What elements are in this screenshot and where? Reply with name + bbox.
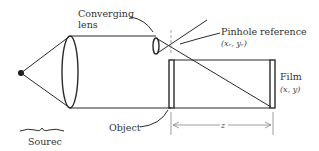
converging-lens-leader <box>130 17 153 32</box>
distance-label: z <box>220 121 226 130</box>
holography-setup-diagram: z Converging lens Pinhole reference (xᵣ,… <box>0 0 319 151</box>
collimating-lens <box>62 36 78 108</box>
film-label: Film <box>280 71 302 82</box>
converging-lens-label-2: lens <box>78 19 98 30</box>
pinhole-reference-label: Pinhole reference <box>221 26 307 37</box>
film-coords-label: (x, y) <box>280 85 300 94</box>
object-label: Object <box>109 122 141 133</box>
converging-lens-label-1: Converging <box>78 8 134 19</box>
film-plate <box>270 60 275 108</box>
converging-lens <box>153 38 159 54</box>
reference-ray-2 <box>156 20 207 54</box>
pinhole-leader <box>180 33 220 44</box>
object-leader <box>140 110 168 127</box>
object-plate <box>169 60 174 108</box>
source-brace-icon <box>20 128 64 131</box>
source-label: Sourec <box>28 136 62 147</box>
pinhole-coords-label: (xᵣ, yᵣ) <box>221 39 247 48</box>
reference-ray <box>156 38 271 107</box>
